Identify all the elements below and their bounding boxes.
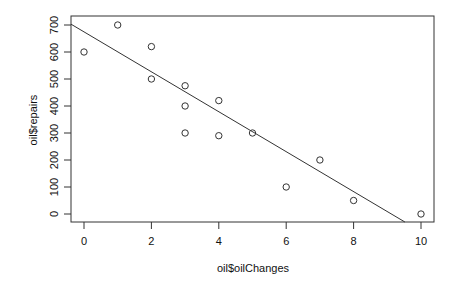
x-tick-label: 0: [81, 235, 87, 247]
data-point: [283, 184, 289, 190]
data-point: [182, 103, 188, 109]
x-tick-label: 10: [415, 235, 427, 247]
y-axis-title: oil$repairs: [27, 94, 39, 145]
data-point: [317, 157, 323, 163]
x-tick-label: 6: [283, 235, 289, 247]
y-tick-label: 100: [48, 178, 60, 196]
y-tick-label: 500: [48, 70, 60, 88]
y-tick-label: 300: [48, 124, 60, 142]
data-point: [81, 49, 87, 55]
scatter-plot: 0246810 0100200300400500600700 oil$oilCh…: [0, 0, 457, 286]
y-tick-label: 600: [48, 43, 60, 61]
y-tick-label: 400: [48, 97, 60, 115]
data-point: [216, 133, 222, 139]
plot-frame: [71, 16, 434, 222]
x-axis: 0246810: [81, 222, 427, 247]
x-tick-label: 8: [351, 235, 357, 247]
y-tick-label: 700: [48, 16, 60, 34]
x-tick-label: 2: [148, 235, 154, 247]
data-points: [81, 22, 424, 217]
data-point: [418, 211, 424, 217]
x-tick-label: 4: [216, 235, 222, 247]
data-point: [350, 197, 356, 203]
y-axis: 0100200300400500600700: [48, 16, 71, 217]
data-point: [182, 130, 188, 136]
data-point: [148, 43, 154, 49]
data-point: [148, 76, 154, 82]
data-point: [115, 22, 121, 28]
y-tick-label: 0: [48, 211, 60, 217]
regression-line: [71, 24, 405, 222]
y-tick-label: 200: [48, 151, 60, 169]
x-axis-title: oil$oilChanges: [217, 262, 290, 274]
data-point: [182, 83, 188, 89]
data-point: [216, 97, 222, 103]
